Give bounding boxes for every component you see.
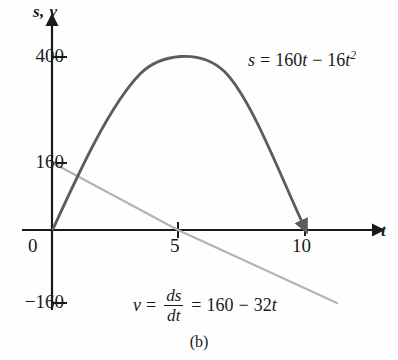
position-curve: [53, 56, 303, 229]
velocity-eq-equals-1: =: [146, 295, 156, 315]
velocity-eq-lhs: v: [133, 295, 141, 315]
derivative-fraction: dsdt: [164, 287, 183, 326]
y-axis-title: s, v: [33, 3, 58, 20]
x-tick-label-0: 0: [28, 236, 38, 255]
x-tick-label-5: 5: [170, 236, 180, 255]
x-axis-title: t: [381, 222, 386, 239]
figure-caption: (b): [0, 334, 398, 350]
position-eq-exponent: 2: [350, 49, 356, 62]
y-tick-label-160: 160: [6, 152, 64, 171]
velocity-eq-var: t: [272, 295, 277, 315]
position-eq-term2: 16: [327, 50, 345, 70]
position-equation-label: s=160t−16t2: [248, 50, 356, 69]
y-tick-label-neg160: −160: [0, 292, 64, 311]
figure-panel: s, v t 400 160 −160 0 5 10 s=160t−16t2 v…: [0, 0, 398, 360]
velocity-line: [53, 163, 337, 303]
position-eq-var1: t: [302, 50, 307, 70]
position-eq-lhs: s: [248, 50, 255, 70]
position-eq-minus: −: [312, 50, 322, 70]
velocity-eq-minus: −: [239, 295, 249, 315]
velocity-equation-label: v=dsdt=160−32t: [133, 288, 277, 327]
position-eq-equals: =: [260, 50, 270, 70]
velocity-eq-term2: 32: [254, 295, 272, 315]
velocity-eq-term1: 160: [207, 295, 234, 315]
fraction-denominator: dt: [164, 305, 183, 326]
fraction-numerator: ds: [164, 287, 183, 305]
x-tick-label-10: 10: [292, 236, 311, 255]
position-eq-term1: 160: [275, 50, 302, 70]
velocity-eq-equals-2: =: [191, 295, 201, 315]
y-tick-label-400: 400: [6, 46, 64, 65]
